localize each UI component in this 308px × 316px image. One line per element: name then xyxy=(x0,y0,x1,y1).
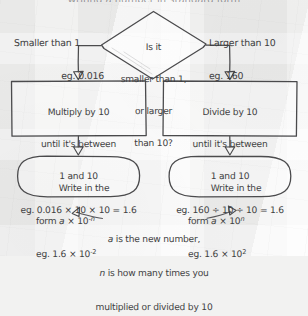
decision-line-1: Is it xyxy=(104,43,203,54)
left-outcome-line-1: Write in the xyxy=(36,184,132,195)
caption-line-1: a is the new number, xyxy=(54,235,254,246)
caption-text: a is the new number, n is how many times… xyxy=(54,212,254,316)
caption-line-3: multiplied or divided by 10 xyxy=(54,303,254,314)
right-process-line-2: until it's between xyxy=(164,140,296,151)
right-branch-label-text: Larger than 10 xyxy=(209,38,303,49)
left-process-line-1: Multiply by 10 xyxy=(12,108,145,119)
left-branch-label-text: Smaller than 1 xyxy=(14,38,106,49)
decision-line-2: smaller than 1, xyxy=(104,75,203,86)
caption-line-2-rest: is how many times you xyxy=(105,269,209,279)
left-branch-example: eg. 0.016 xyxy=(14,71,106,82)
left-process-line-2: until it's between xyxy=(12,140,145,151)
caption-line-1-rest: is the new number, xyxy=(113,235,200,245)
right-branch-example: eg. 160 xyxy=(209,71,303,82)
right-outcome-line-1: Write in the xyxy=(188,184,284,195)
right-process-line-1: Divide by 10 xyxy=(164,108,296,119)
caption-line-2: n is how many times you xyxy=(54,269,254,280)
